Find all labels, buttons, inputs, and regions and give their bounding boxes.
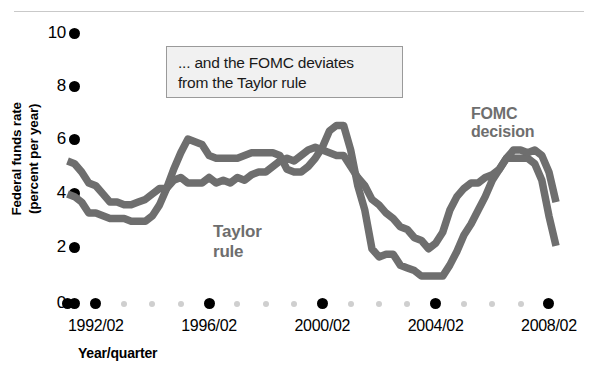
x-tick-label-2000: 2000/02	[277, 317, 367, 335]
x-tick-label-2004: 2004/02	[391, 317, 481, 335]
series-label-taylor-line2: rule	[213, 242, 262, 262]
x-tick-dot-minor-icon	[62, 298, 73, 309]
x-tick-dot-minor-icon	[291, 301, 297, 307]
x-axis-title: Year/quarter	[78, 345, 157, 361]
x-tick-label-1996: 1996/02	[164, 317, 254, 335]
x-tick-dot-minor-icon	[404, 301, 410, 307]
x-tick-label-1992: 1992/02	[51, 317, 141, 335]
x-tick-dot-minor-icon	[489, 301, 495, 307]
x-tick-dot-minor-icon	[376, 301, 382, 307]
x-tick-label-2008: 2008/02	[504, 317, 594, 335]
x-tick-dot-minor-icon	[461, 301, 467, 307]
annotation-line2: from the Taylor rule	[178, 73, 392, 93]
series-label-fomc-line1: FOMC	[471, 105, 534, 123]
x-tick-dot-minor-icon	[234, 301, 240, 307]
annotation-box: ... and the FOMC deviates from the Taylo…	[166, 46, 403, 98]
series-label-fomc-line2: decision	[471, 123, 534, 141]
x-tick-dot-minor-icon	[178, 301, 184, 307]
x-tick-dot-minor-icon	[121, 301, 127, 307]
x-tick-dot-minor-icon	[518, 301, 524, 307]
series-label-fomc-decision: FOMC decision	[471, 105, 534, 142]
series-label-taylor-line1: Taylor	[213, 222, 262, 242]
x-tick-dot-major-icon	[317, 298, 328, 309]
x-tick-dot-minor-icon	[348, 301, 354, 307]
x-tick-dot-major-icon	[204, 298, 215, 309]
x-tick-dot-minor-icon	[263, 301, 269, 307]
chart-figure: 10 8 6 4 2 0 Federal funds rate (percent…	[0, 0, 594, 381]
series-label-taylor-rule: Taylor rule	[213, 222, 262, 261]
annotation-line1: ... and the FOMC deviates	[178, 53, 392, 73]
